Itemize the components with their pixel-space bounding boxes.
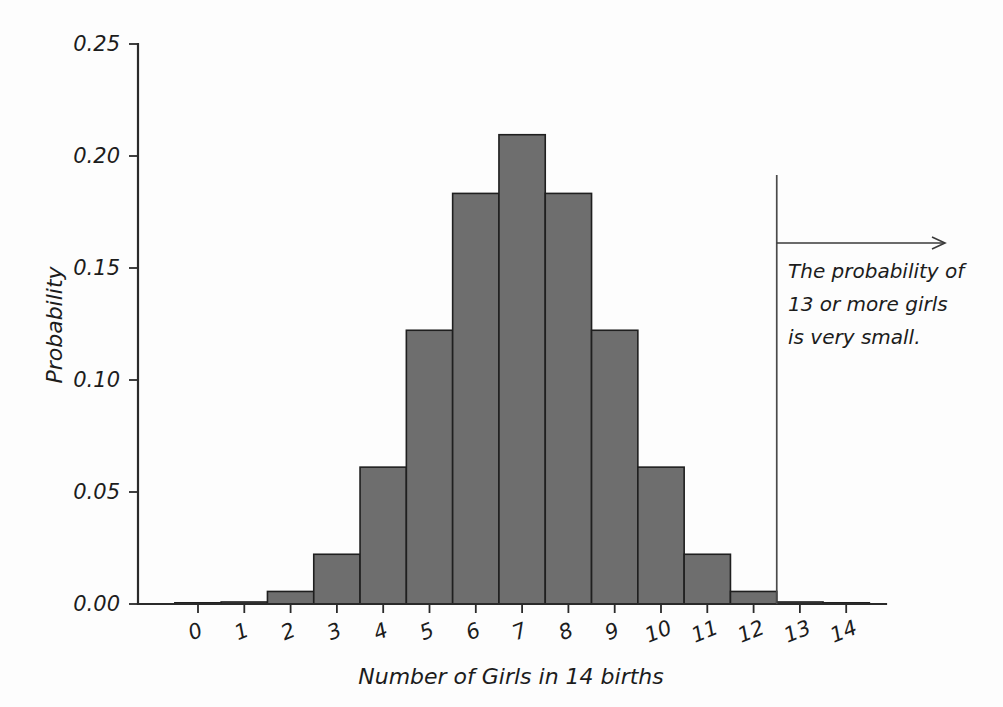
x-tick-label: 6 (462, 618, 483, 645)
x-tick-label: 7 (509, 618, 531, 645)
histogram-bar (592, 330, 638, 604)
histogram-bar (360, 467, 406, 604)
y-tick-label: 0.05 (73, 480, 120, 504)
y-ticks-group: 0.000.050.100.150.200.25 (73, 32, 138, 616)
chart-figure: 0.000.050.100.150.200.25 012345678910111… (0, 0, 1003, 707)
x-tick-label: 5 (416, 618, 437, 645)
y-tick-label: 0.20 (73, 144, 120, 168)
annotation-text-line-2: 13 or more girls (788, 292, 948, 316)
histogram-bar (638, 467, 684, 604)
x-axis-title: Number of Girls in 14 births (358, 664, 664, 689)
histogram-bar (545, 193, 591, 604)
y-tick-label: 0.10 (73, 368, 120, 392)
x-tick-label: 0 (185, 618, 206, 645)
x-tick-label: 9 (601, 618, 622, 645)
y-tick-label: 0.15 (73, 256, 120, 280)
x-tick-label: 14 (827, 615, 861, 647)
x-tick-label: 2 (277, 618, 298, 645)
x-tick-label: 11 (688, 615, 722, 647)
annotation-text-line-3: is very small. (788, 325, 921, 349)
x-tick-label: 3 (324, 618, 345, 645)
x-tick-label: 12 (734, 615, 768, 647)
histogram-svg: 0.000.050.100.150.200.25 012345678910111… (0, 0, 1003, 707)
x-tick-label: 13 (780, 615, 814, 647)
y-tick-label: 0.25 (73, 32, 120, 56)
x-tick-label: 1 (231, 618, 252, 645)
annotation-text-line-1: The probability of (788, 259, 967, 283)
y-tick-label: 0.00 (73, 592, 120, 616)
y-axis-title: Probability (42, 265, 67, 383)
annotation-group: The probability of 13 or more girls is v… (777, 175, 968, 604)
histogram-bar (406, 330, 452, 604)
x-ticks-group: 01234567891011121314 (185, 604, 861, 648)
histogram-bar (499, 135, 545, 604)
histogram-bar (314, 554, 360, 604)
histogram-bar (730, 591, 776, 604)
x-tick-label: 4 (370, 618, 391, 645)
x-tick-label: 8 (555, 618, 576, 645)
x-tick-label: 10 (641, 615, 675, 647)
histogram-bar (453, 193, 499, 604)
bars-group (175, 135, 870, 604)
histogram-bar (684, 554, 730, 604)
histogram-bar (267, 591, 313, 604)
